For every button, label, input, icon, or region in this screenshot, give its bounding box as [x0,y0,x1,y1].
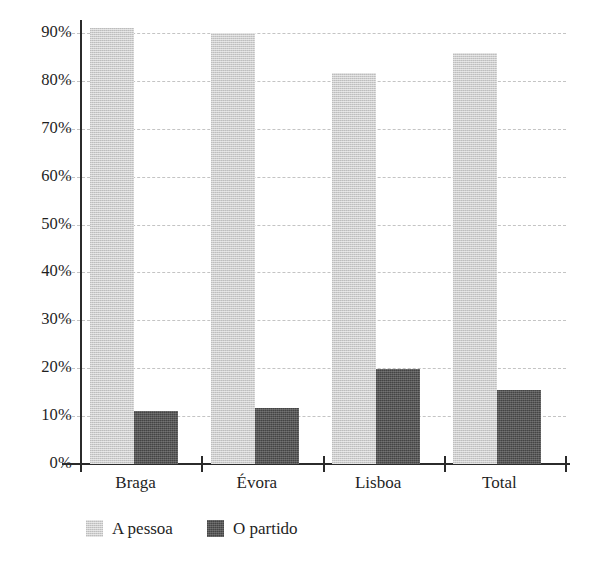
y-tick-label: 50% [16,216,72,233]
bar-lisboa-o-partido [376,369,420,464]
y-tick-label: 40% [16,263,72,280]
x-tick-3 [444,456,446,472]
x-tick-0 [80,456,82,472]
plot-area [81,20,566,464]
y-tick-label: 10% [16,407,72,424]
y-tick-label: 20% [16,359,72,376]
x-tick-4 [565,456,567,472]
legend-item-a-pessoa[interactable]: A pessoa [86,519,173,538]
bar-braga-a-pessoa [90,28,134,464]
x-tick-2 [323,456,325,472]
bar-chart: 0%10%20%30%40%50%60%70%80%90% BragaÉvora… [0,0,593,577]
bar-total-a-pessoa [453,53,497,464]
bar-lisboa-a-pessoa [332,73,376,464]
legend-swatch-icon [86,520,103,537]
x-tick-1 [201,456,203,472]
legend-item-o-partido[interactable]: O partido [207,519,298,538]
x-axis-label-évora: Évora [197,472,317,494]
y-tick-label: 80% [16,72,72,89]
bar-évora-a-pessoa [211,33,255,464]
y-tick-label: 60% [16,168,72,185]
bar-braga-o-partido [134,411,178,464]
x-axis-label-braga: Braga [76,472,196,494]
legend-label: A pessoa [112,519,173,538]
legend-label: O partido [233,519,298,538]
x-axis-label-total: Total [439,472,559,494]
bar-total-o-partido [497,390,541,464]
y-tick-label: 90% [16,24,72,41]
chart-legend: A pessoaO partido [86,519,298,538]
y-tick-label: 70% [16,120,72,137]
x-axis-label-lisboa: Lisboa [318,472,438,494]
legend-swatch-icon [207,520,224,537]
y-tick-label: 30% [16,311,72,328]
bar-évora-o-partido [255,408,299,465]
